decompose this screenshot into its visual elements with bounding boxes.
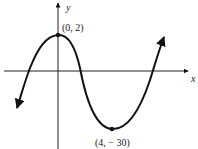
cubic-graph: y x (0, 2) (4, − 30) bbox=[0, 0, 198, 149]
max-point-label: (0, 2) bbox=[62, 22, 84, 34]
max-point-marker bbox=[56, 33, 60, 37]
y-axis-label: y bbox=[65, 2, 71, 13]
min-point-marker bbox=[110, 127, 114, 131]
x-axis-label: x bbox=[190, 73, 196, 84]
min-point-label: (4, − 30) bbox=[95, 137, 130, 149]
cubic-curve bbox=[17, 35, 164, 129]
